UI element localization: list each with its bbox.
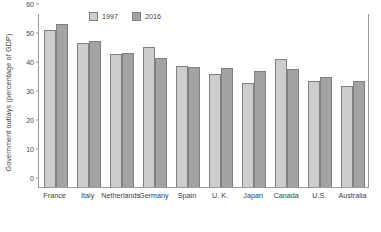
bar-1997 [176, 66, 188, 188]
bar-1997 [77, 43, 89, 187]
x-axis-label: Netherlands [101, 191, 140, 200]
bar-2016 [287, 69, 299, 187]
bar-2016 [320, 77, 332, 187]
bar-group [175, 14, 201, 187]
bar-group [76, 14, 102, 187]
y-axis-tick: 10 [26, 145, 39, 154]
bar-2016 [155, 58, 167, 187]
bar-2016 [56, 24, 68, 187]
y-axis-tick-label: 50 [26, 30, 34, 37]
bar-group [43, 14, 69, 187]
bar-group [307, 14, 333, 187]
y-axis-title: Government outlays (percentage of GDP) [0, 0, 16, 205]
bar-2016 [221, 68, 233, 187]
bars-layer [39, 14, 368, 187]
x-axis-label: Canada [274, 191, 299, 200]
bar-group [109, 14, 135, 187]
y-axis-tick: 50 [26, 29, 39, 38]
x-axis-label: Australia [338, 191, 366, 200]
bar-group [340, 14, 366, 187]
bar-1997 [308, 81, 320, 187]
y-axis-tick-label: 0 [30, 175, 34, 182]
x-axis-label: U.S. [312, 191, 326, 200]
bar-group [274, 14, 300, 187]
bar-2016 [188, 67, 200, 187]
bar-1997 [110, 54, 122, 187]
x-axis-label: France [43, 191, 65, 200]
x-axis-label: Italy [81, 191, 94, 200]
bar-group [142, 14, 168, 187]
x-axis-label: Japan [243, 191, 263, 200]
y-axis-tick: 0 [30, 174, 39, 183]
y-axis-tick-mark [36, 4, 39, 5]
bar-2016 [89, 41, 101, 187]
x-axis-label: U. K. [212, 191, 228, 200]
bar-1997 [143, 47, 155, 187]
y-axis-tick-label: 30 [26, 88, 34, 95]
plot-area: 0102030405060 [38, 14, 369, 188]
y-axis-tick: 40 [26, 58, 39, 67]
y-axis-tick: 60 [26, 0, 39, 9]
y-axis-title-text: Government outlays (percentage of GDP) [4, 33, 13, 171]
bar-1997 [44, 30, 56, 187]
y-axis-tick-label: 10 [26, 146, 34, 153]
bar-1997 [341, 86, 353, 187]
bar-2016 [122, 53, 134, 187]
bar-2016 [353, 81, 365, 187]
bar-group [241, 14, 267, 187]
bar-1997 [242, 83, 254, 187]
x-axis-label: Germany [139, 191, 169, 200]
y-axis-tick: 20 [26, 116, 39, 125]
y-axis-tick-label: 20 [26, 117, 34, 124]
y-axis-tick-label: 60 [26, 1, 34, 8]
x-axis-label: Spain [178, 191, 196, 200]
bar-1997 [209, 74, 221, 187]
bar-chart-figure: Government outlays (percentage of GDP) 1… [0, 0, 381, 232]
bar-1997 [275, 59, 287, 187]
y-axis-tick: 30 [26, 87, 39, 96]
bar-2016 [254, 71, 266, 187]
y-axis-tick-label: 40 [26, 59, 34, 66]
bar-group [208, 14, 234, 187]
